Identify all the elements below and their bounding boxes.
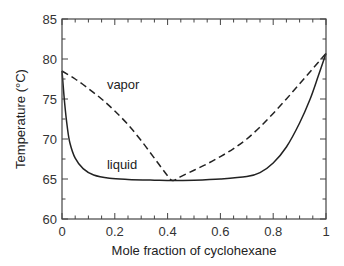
plot-frame [62,19,326,219]
vapor-label: vapor [107,77,140,92]
y-tick-labels: 606570758085 [43,12,57,227]
y-tick-label: 75 [43,92,57,107]
y-tick-label: 65 [43,172,57,187]
y-axis-title: Temperature (°C) [13,69,28,169]
liquid-curve [62,53,326,180]
liquid-label: liquid [107,157,137,172]
axis-ticks [62,19,326,219]
x-tick-label: 0.2 [106,224,124,239]
x-tick-label: 0.4 [159,224,177,239]
x-tick-label: 0.6 [211,224,229,239]
x-axis-title: Mole fraction of cyclohexane [112,243,277,258]
x-tick-labels: 00.20.40.60.81 [58,224,329,239]
x-tick-label: 1 [322,224,329,239]
x-tick-label: 0.8 [264,224,282,239]
x-tick-label: 0 [58,224,65,239]
y-tick-label: 80 [43,52,57,67]
series-group [62,53,326,180]
y-tick-label: 70 [43,132,57,147]
annotations: vaporliquid [107,77,140,172]
phase-diagram-chart: 00.20.40.60.81 606570758085 Mole fractio… [0,0,344,266]
vapor-curve [62,53,326,180]
y-tick-label: 85 [43,12,57,27]
y-tick-label: 60 [43,212,57,227]
